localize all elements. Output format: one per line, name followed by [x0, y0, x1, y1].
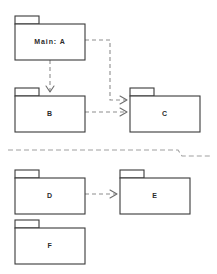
package-label: E	[152, 192, 158, 199]
diagram-canvas: Main: A B C D E	[0, 0, 217, 274]
package-label: C	[162, 110, 168, 117]
package-tab	[15, 170, 39, 178]
package-label: D	[47, 192, 53, 199]
package-b[interactable]: B	[15, 88, 85, 132]
dependency-b-to-c[interactable]	[85, 108, 127, 116]
package-tab	[130, 88, 154, 96]
dependency-a-to-b[interactable]	[46, 60, 54, 92]
package-f[interactable]: F	[15, 220, 85, 264]
package-e[interactable]: E	[120, 170, 190, 214]
horizontal-separator-line	[8, 150, 210, 156]
dependency-a-to-c[interactable]	[85, 40, 127, 104]
dependency-line	[85, 40, 126, 100]
package-group: Main: A B C D E	[15, 16, 200, 264]
package-d[interactable]: D	[15, 170, 85, 214]
package-main-a[interactable]: Main: A	[15, 16, 85, 60]
dependency-d-to-e[interactable]	[85, 190, 117, 198]
package-tab	[120, 170, 144, 178]
uml-package-diagram: Main: A B C D E	[0, 0, 217, 274]
separator-group	[8, 150, 210, 156]
package-label: F	[47, 242, 52, 249]
package-tab	[15, 16, 39, 24]
package-label: B	[47, 110, 53, 117]
package-tab	[15, 220, 39, 228]
package-tab	[15, 88, 39, 96]
package-c[interactable]: C	[130, 88, 200, 132]
package-label: Main: A	[34, 38, 65, 45]
